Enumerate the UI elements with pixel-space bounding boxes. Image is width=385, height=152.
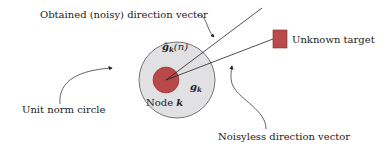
unit-norm-circle-label: Unit norm circle [22,104,106,115]
noisy-vector-label: Obtained (noisy) direction vector [40,9,208,20]
unknown-target-label: Unknown target [292,34,375,45]
diagram-svg: Obtained (noisy) direction vector Unknow… [0,0,385,152]
noiseless-vector-label: Noisyless direction vector [218,131,350,142]
unit-circle-pointer [60,68,112,104]
diagram-canvas: Obtained (noisy) direction vector Unknow… [0,0,385,152]
noiseless-vector-pointer [231,66,266,129]
node-label: Node k [146,97,183,108]
unknown-target-square [273,30,287,48]
